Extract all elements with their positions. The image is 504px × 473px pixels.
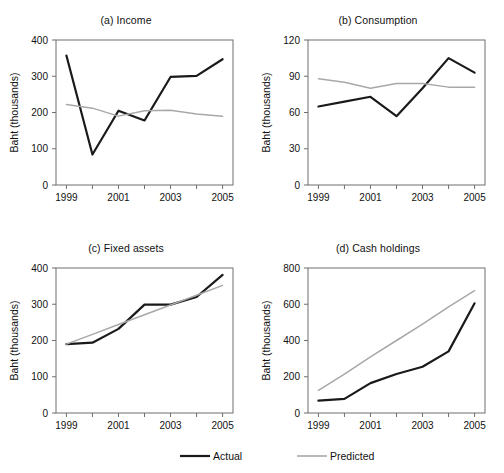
x-tick-label: 2005 bbox=[463, 192, 486, 203]
panel-fixed-assets: (c) Fixed assets 01002003004001999200120… bbox=[0, 228, 252, 453]
legend-label-predicted: Predicted bbox=[330, 450, 375, 462]
plot-frame bbox=[56, 40, 233, 185]
panel-consumption: (b) Consumption 030609012019992001200320… bbox=[252, 0, 504, 225]
y-axis-title: Baht (thousands) bbox=[8, 301, 20, 381]
plot-frame bbox=[308, 40, 485, 185]
legend-label-actual: Actual bbox=[213, 450, 242, 462]
x-tick-label: 2005 bbox=[463, 420, 486, 431]
x-tick-label: 2003 bbox=[411, 420, 434, 431]
y-tick-label: 0 bbox=[294, 180, 300, 191]
y-tick-label: 400 bbox=[31, 263, 48, 274]
y-tick-label: 100 bbox=[31, 143, 48, 154]
figure-multi-panel-line-charts: (a) Income 01002003004001999200120032005… bbox=[0, 0, 504, 473]
x-tick-label: 1999 bbox=[307, 192, 330, 203]
plot-cash-holdings: 02004006008001999200120032005Baht (thous… bbox=[252, 228, 504, 453]
y-tick-label: 300 bbox=[31, 299, 48, 310]
x-tick-label: 2001 bbox=[107, 420, 130, 431]
y-tick-label: 800 bbox=[283, 263, 300, 274]
x-tick-label: 2005 bbox=[211, 192, 234, 203]
series-line-predicted bbox=[66, 285, 222, 344]
y-tick-label: 30 bbox=[289, 143, 301, 154]
y-tick-label: 200 bbox=[283, 371, 300, 382]
y-tick-label: 100 bbox=[31, 371, 48, 382]
x-tick-label: 2003 bbox=[159, 420, 182, 431]
plot-fixed-assets: 01002003004001999200120032005Baht (thous… bbox=[0, 228, 252, 453]
plot-consumption: 03060901201999200120032005Baht (thousand… bbox=[252, 0, 504, 225]
y-tick-label: 0 bbox=[42, 408, 48, 419]
x-tick-label: 2001 bbox=[359, 192, 382, 203]
y-tick-label: 60 bbox=[289, 107, 301, 118]
y-axis-title: Baht (thousands) bbox=[260, 301, 272, 381]
y-tick-label: 400 bbox=[31, 35, 48, 46]
series-line-actual bbox=[66, 275, 222, 344]
x-tick-label: 2001 bbox=[107, 192, 130, 203]
series-line-predicted bbox=[66, 105, 222, 117]
panel-income: (a) Income 01002003004001999200120032005… bbox=[0, 0, 252, 225]
x-tick-label: 1999 bbox=[307, 420, 330, 431]
y-tick-label: 0 bbox=[294, 408, 300, 419]
y-tick-label: 120 bbox=[283, 35, 300, 46]
x-tick-label: 2005 bbox=[211, 420, 234, 431]
y-tick-label: 400 bbox=[283, 335, 300, 346]
y-tick-label: 200 bbox=[31, 335, 48, 346]
y-axis-title: Baht (thousands) bbox=[8, 73, 20, 153]
chart-legend: ActualPredicted bbox=[0, 443, 504, 473]
series-line-predicted bbox=[318, 79, 474, 89]
x-tick-label: 2003 bbox=[411, 192, 434, 203]
series-line-actual bbox=[318, 303, 474, 400]
y-tick-label: 90 bbox=[289, 71, 301, 82]
plot-income: 01002003004001999200120032005Baht (thous… bbox=[0, 0, 252, 225]
y-tick-label: 600 bbox=[283, 299, 300, 310]
panel-cash-holdings: (d) Cash holdings 0200400600800199920012… bbox=[252, 228, 504, 453]
y-axis-title: Baht (thousands) bbox=[260, 73, 272, 153]
series-line-actual bbox=[66, 56, 222, 155]
x-tick-label: 2001 bbox=[359, 420, 382, 431]
x-tick-label: 1999 bbox=[55, 420, 78, 431]
y-tick-label: 0 bbox=[42, 180, 48, 191]
y-tick-label: 300 bbox=[31, 71, 48, 82]
x-tick-label: 2003 bbox=[159, 192, 182, 203]
x-tick-label: 1999 bbox=[55, 192, 78, 203]
y-tick-label: 200 bbox=[31, 107, 48, 118]
series-line-predicted bbox=[318, 291, 474, 391]
